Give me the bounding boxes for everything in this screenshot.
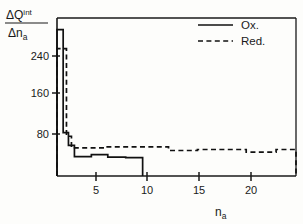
y-axis-label-numerator-sup: int	[23, 8, 32, 17]
y-ticklabel-80: 80	[37, 128, 49, 140]
y-axis-ticks: 240 160 80	[31, 50, 60, 140]
legend-label-red: Red.	[241, 35, 265, 47]
x-axis-label-sub: a	[222, 211, 227, 221]
x-ticklabel-20: 20	[245, 184, 257, 196]
y-axis-label-numerator-base: ΔQ	[6, 8, 23, 22]
x-ticklabel-15: 15	[193, 184, 205, 196]
figure-container: 240 160 80 5 10 15 20 ΔQint Δna	[0, 0, 303, 224]
y-axis-label: ΔQint Δna	[5, 8, 48, 42]
legend: Ox. Red.	[198, 19, 265, 47]
series-red-line	[57, 49, 296, 176]
x-axis-label: na	[215, 205, 227, 221]
series-ox-line	[57, 30, 143, 176]
data-series-group	[57, 30, 296, 176]
y-ticklabel-160: 160	[31, 87, 49, 99]
y-axis-label-denominator-base: Δn	[8, 26, 23, 40]
x-ticklabel-5: 5	[93, 184, 99, 196]
y-axis-label-denominator-sub: a	[23, 32, 28, 42]
y-axis-label-denominator: Δna	[8, 26, 28, 42]
x-ticklabel-10: 10	[141, 184, 153, 196]
legend-label-ox: Ox.	[241, 19, 259, 31]
y-axis-label-numerator: ΔQint	[6, 8, 33, 22]
x-axis-label-text: na	[215, 205, 227, 221]
y-ticklabel-240: 240	[31, 50, 49, 62]
x-axis-label-base: n	[215, 205, 222, 219]
chart-canvas: 240 160 80 5 10 15 20 ΔQint Δna	[0, 0, 303, 224]
